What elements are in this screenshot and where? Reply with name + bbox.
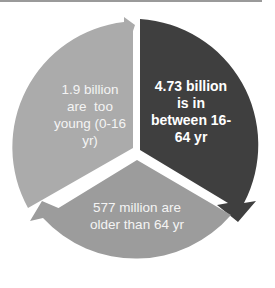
label-working-age: 4.73 billion is in between 16- 64 yr — [143, 78, 239, 146]
label-young-line-1: 1.9 billion — [40, 81, 140, 98]
label-working-line-4: 64 yr — [143, 129, 239, 146]
label-older-line-2: older than 64 yr — [72, 216, 202, 233]
label-young-line-4: yr) — [40, 132, 140, 149]
label-young-line-2: are too — [40, 98, 140, 115]
label-working-line-3: between 16- — [143, 112, 239, 129]
label-working-line-1: 4.73 billion — [143, 78, 239, 95]
label-older-line-1: 577 million are — [72, 199, 202, 216]
label-young: 1.9 billion are too young (0-16 yr) — [40, 81, 140, 149]
label-young-line-3: young (0-16 — [40, 115, 140, 132]
label-working-line-2: is in — [143, 95, 239, 112]
label-older: 577 million are older than 64 yr — [72, 199, 202, 233]
